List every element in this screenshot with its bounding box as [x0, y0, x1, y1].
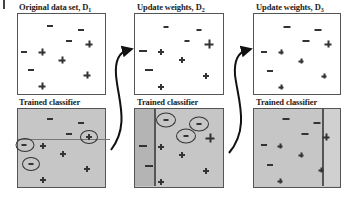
positive-sample — [179, 152, 185, 158]
negative-sample-weighted — [145, 69, 153, 71]
classifier-2-box — [134, 108, 224, 188]
negative-sample — [197, 29, 202, 31]
dataset-d1-box — [17, 13, 106, 95]
positive-sample — [325, 41, 332, 48]
panel-1-classifier-title: Trained classifier — [19, 97, 80, 107]
positive-sample — [60, 151, 66, 157]
negative-sample-weighted — [139, 50, 147, 52]
classifier-1-box — [17, 108, 106, 188]
negative-sample-weighted — [315, 29, 322, 31]
negative-sample — [261, 51, 267, 53]
negative-sample — [267, 70, 273, 72]
positive-sample — [203, 168, 209, 174]
negative-sample-weighted — [139, 145, 147, 147]
misclassified-circle — [80, 130, 98, 144]
positive-sample-weighted — [205, 40, 214, 49]
negative-sample — [78, 29, 84, 31]
positive-sample — [203, 73, 209, 79]
negative-sample — [21, 51, 27, 53]
negative-sample — [66, 133, 72, 135]
panel-2-classifier-title: Trained classifier — [137, 97, 198, 107]
negative-sample-weighted — [303, 40, 310, 42]
positive-sample — [299, 153, 304, 158]
arrow-2-to-3 — [229, 50, 247, 153]
misclassified-circle — [22, 157, 40, 171]
negative-sample — [47, 118, 53, 120]
classifier-3-box — [253, 108, 341, 188]
positive-sample-weighted — [206, 134, 215, 143]
misclassified-circle — [16, 138, 35, 152]
edge-mark — [3, 0, 5, 9]
positive-sample — [299, 59, 304, 64]
arrow-1-to-2 — [111, 50, 128, 150]
positive-sample — [278, 179, 283, 184]
negative-sample-weighted — [302, 133, 309, 135]
negative-sample-weighted — [314, 122, 321, 124]
positive-sample — [279, 50, 284, 55]
negative-sample — [261, 144, 267, 146]
negative-sample — [267, 164, 273, 166]
panel-3-title: Update weights, D3 — [256, 2, 324, 13]
positive-sample — [39, 49, 46, 56]
positive-sample — [322, 74, 327, 79]
positive-sample — [40, 143, 46, 149]
positive-sample — [86, 41, 93, 48]
negative-sample-weighted — [283, 118, 290, 120]
panel-3-classifier-title: Trained classifier — [256, 97, 317, 107]
positive-sample — [319, 168, 324, 173]
dataset-d2-box — [134, 13, 224, 95]
negative-sample — [28, 69, 34, 71]
positive-sample — [59, 57, 66, 64]
panel-1-title: Original data set, D1 — [19, 2, 91, 13]
positive-sample — [158, 84, 164, 90]
positive-sample — [278, 144, 283, 149]
dataset-d3-box — [253, 13, 341, 95]
negative-sample — [185, 40, 190, 42]
positive-sample — [179, 57, 185, 63]
positive-sample — [84, 166, 90, 172]
negative-sample-weighted — [284, 26, 291, 28]
negative-sample — [164, 26, 169, 28]
negative-sample — [78, 122, 84, 124]
positive-sample — [279, 85, 284, 90]
positive-sample — [39, 83, 46, 90]
positive-sample — [40, 177, 46, 183]
misclassified-circle — [176, 129, 196, 144]
negative-sample-weighted — [145, 165, 153, 167]
positive-sample — [158, 144, 164, 150]
region-positive — [322, 109, 340, 186]
positive-sample — [84, 72, 91, 79]
region-negative — [135, 109, 154, 186]
positive-sample — [323, 134, 330, 141]
positive-sample — [158, 179, 164, 185]
panel-2-title: Update weights, D2 — [137, 2, 205, 13]
negative-sample — [66, 40, 72, 42]
decision-boundary — [322, 109, 324, 186]
misclassified-circle — [156, 113, 176, 128]
negative-sample — [47, 25, 53, 27]
positive-sample — [158, 49, 164, 55]
